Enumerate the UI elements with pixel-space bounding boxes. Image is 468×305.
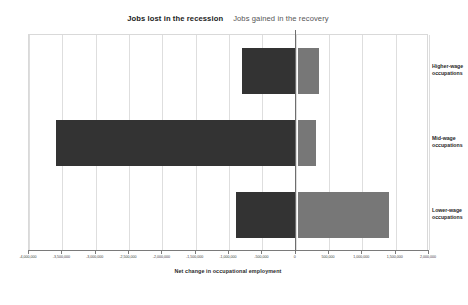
bar-rows	[29, 35, 427, 250]
x-tick-label: 2,000,000	[420, 255, 436, 259]
bar-row	[29, 120, 427, 166]
x-tick-label: -3,500,000	[53, 255, 70, 259]
x-tick	[128, 250, 129, 254]
x-tick-label: 1,000,000	[353, 255, 369, 259]
x-tick	[195, 250, 196, 254]
x-axis-title: Net change in occupational employment	[0, 268, 456, 274]
category-label-line1: Mid-wage	[432, 135, 468, 142]
bar-jobs-lost	[242, 48, 294, 94]
plot-area	[28, 34, 428, 250]
x-tick-label: 500,000	[322, 255, 335, 259]
x-tick-label: 0	[294, 255, 296, 259]
bar-row	[29, 48, 427, 94]
x-tick	[228, 250, 229, 254]
category-label-line1: Lower-wage	[432, 207, 468, 214]
bar-jobs-gained	[298, 192, 389, 238]
x-tick-label: -1,500,000	[186, 255, 203, 259]
category-labels: Higher-wageoccupationsMid-wageoccupation…	[432, 34, 456, 250]
category-label-line2: occupations	[432, 214, 468, 221]
category-label: Higher-wageoccupations	[432, 63, 468, 77]
category-label-line1: Higher-wage	[432, 63, 468, 70]
x-tick-label: -2,500,000	[119, 255, 136, 259]
x-tick-label: -4,000,000	[19, 255, 36, 259]
bar-jobs-lost	[236, 192, 295, 238]
bar-row	[29, 192, 427, 238]
x-tick	[395, 250, 396, 254]
bar-jobs-gained	[298, 48, 319, 94]
bar-jobs-lost	[56, 120, 295, 166]
x-tick-label: -3,000,000	[86, 255, 103, 259]
gridline	[429, 35, 430, 250]
x-tick	[28, 250, 29, 254]
x-tick	[161, 250, 162, 254]
category-label-line2: occupations	[432, 70, 468, 77]
x-tick	[61, 250, 62, 254]
x-tick	[261, 250, 262, 254]
x-tick-label: -500,000	[254, 255, 268, 259]
x-tick-label: -2,000,000	[153, 255, 170, 259]
category-label-line2: occupations	[432, 142, 468, 149]
x-tick-label: 1,500,000	[387, 255, 403, 259]
x-tick-label: -1,000,000	[219, 255, 236, 259]
x-tick	[328, 250, 329, 254]
chart-title: Jobs lost in the recession Jobs gained i…	[0, 14, 456, 23]
x-axis-tick-labels: -4,000,000-3,500,000-3,000,000-2,500,000…	[0, 255, 456, 265]
x-tick	[428, 250, 429, 254]
category-label: Lower-wageoccupations	[432, 207, 468, 221]
zero-line	[295, 30, 296, 252]
bar-jobs-gained	[298, 120, 316, 166]
title-jobs-gained: Jobs gained in the recovery	[233, 14, 329, 23]
x-tick	[361, 250, 362, 254]
category-label: Mid-wageoccupations	[432, 135, 468, 149]
title-jobs-lost: Jobs lost in the recession	[127, 14, 223, 23]
x-tick	[95, 250, 96, 254]
